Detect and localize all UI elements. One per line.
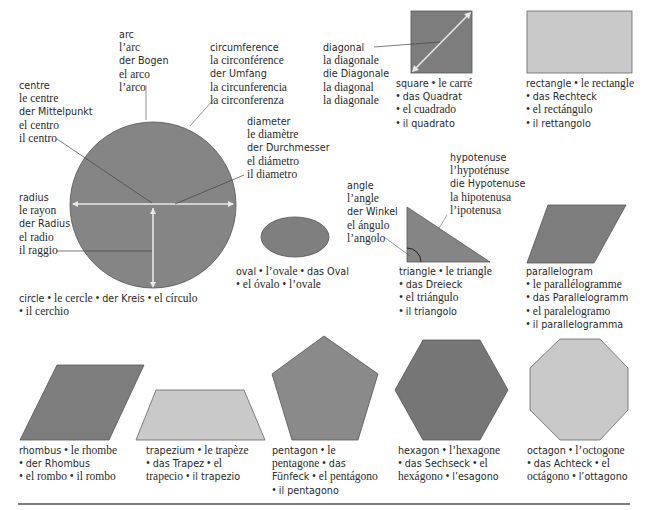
pentagon-caption: pentagon • le pentagone • das Fünfeck • … — [272, 444, 378, 497]
caption-line: • das Parallelogramm — [526, 291, 628, 304]
arc-label: arc l’arc der Bogen el arco l’arco — [119, 28, 169, 94]
label-en: angle — [347, 179, 398, 192]
label-es: el círculo — [154, 292, 197, 304]
caption-line: • il rettangolo — [526, 117, 634, 130]
caption-line: octágono • l’ottagono — [527, 470, 628, 483]
caption-line: • el cuadrado — [396, 103, 472, 116]
label-es: el paralelogramo — [533, 305, 611, 317]
rhombus-shape — [20, 365, 144, 440]
bullet: • — [321, 444, 325, 456]
label-es: octágono — [527, 470, 569, 482]
label-de: Fünfeck — [272, 471, 309, 482]
label-fr: l’octogone — [575, 444, 624, 456]
label-fr: pentagone — [272, 457, 319, 469]
label-fr: la diagonale — [323, 54, 389, 67]
bullet: • — [186, 470, 190, 482]
label-es: el — [602, 457, 610, 469]
label-es: la diagonal — [323, 81, 389, 94]
caption-line: • das Sechseck • el — [398, 457, 500, 470]
label-es: el óvalo — [243, 278, 280, 290]
hypotenuse-label: hypotenuse l’hypoténuse die Hypotenuse l… — [450, 151, 525, 217]
label-fr: le rhombe — [71, 444, 117, 456]
caption-line: • das Achteck • el — [527, 457, 628, 470]
pentagon-shape — [272, 336, 378, 440]
bullet: • — [398, 457, 402, 469]
diagonal-label: diagonal la diagonale die Diagonale la d… — [323, 41, 389, 107]
label-it: il pentagono — [279, 485, 339, 496]
label-es: el rombo — [26, 470, 67, 482]
caption-line: • el rectángulo — [526, 103, 634, 116]
caption-line: • el triángulo — [399, 291, 492, 304]
label-de: der Umfang — [210, 67, 287, 80]
label-en: triangle — [399, 266, 436, 277]
caption-line: hexágono • l’esagono — [398, 470, 500, 483]
caption-line: • das Dreieck — [399, 278, 492, 291]
octagon-caption: octagon • l’octogone • das Achteck • el … — [527, 444, 628, 484]
caption-line: triangle • le triangle — [399, 265, 492, 278]
oval-shape — [261, 217, 329, 257]
bullet: • — [396, 117, 400, 129]
label-de: der Winkel — [347, 205, 398, 218]
bullet: • — [526, 291, 530, 303]
parallelogram-caption: parallelogram • le parallélogramme • das… — [526, 265, 628, 331]
bullet: • — [282, 278, 286, 290]
label-it: l’ipotenusa — [450, 204, 525, 217]
label-es: el rectángulo — [533, 103, 593, 115]
label-de: der Bogen — [119, 54, 169, 67]
bullet: • — [148, 292, 152, 304]
caption-line: hexagon • l’hexagone — [398, 444, 500, 457]
bullet: • — [526, 90, 530, 102]
rectangle-shape — [527, 11, 632, 73]
label-fr: le carré — [438, 77, 472, 89]
circumference-label: circumference la circonférence der Umfan… — [210, 41, 287, 107]
label-de: der Rhombus — [26, 458, 90, 469]
label-fr: le — [327, 444, 335, 456]
label-fr: le rayon — [19, 204, 70, 217]
label-de: das Dreieck — [406, 279, 462, 290]
label-en: hypotenuse — [450, 151, 525, 164]
label-de: der Radius — [19, 217, 70, 230]
caption-line: • das Quadrat — [396, 90, 472, 103]
centre-label: centre le centre der Mittelpunkt el cent… — [19, 79, 93, 145]
label-fr: l’hexagone — [449, 444, 500, 456]
label-fr: le parallélogramme — [533, 278, 622, 290]
label-de: der Kreis — [102, 293, 145, 304]
oval-caption: oval • l’ovale • das Oval • el óvalo • l… — [236, 265, 361, 291]
label-it: l’esagono — [452, 471, 498, 482]
label-fr: le cercle — [54, 292, 93, 304]
bullet: • — [146, 457, 150, 469]
caption-line: • das Trapez • el — [146, 457, 249, 470]
bullet: • — [526, 278, 530, 290]
label-de: das Sechseck — [405, 458, 470, 469]
label-es: el arco — [119, 68, 169, 81]
rectangle-caption: rectangle • le rectangle • das Rechteck … — [526, 77, 634, 130]
label-de: der Durchmesser — [247, 141, 330, 154]
label-fr: le rectangle — [581, 77, 634, 89]
label-it: la diagonale — [323, 94, 389, 107]
label-it: la circonferenza — [210, 94, 287, 107]
bullet: • — [19, 470, 23, 482]
label-en: circumference — [210, 41, 287, 54]
label-es: el diámetro — [247, 155, 330, 168]
bullet: • — [526, 318, 530, 330]
bullet: • — [95, 292, 99, 304]
label-it: il triangolo — [406, 306, 457, 317]
hexagon-caption: hexagon • l’hexagone • das Sechseck • el… — [398, 444, 500, 484]
label-de: die Diagonale — [323, 67, 389, 80]
rhombus-caption: rhombus • le rhombe • der Rhombus • el r… — [19, 444, 117, 484]
label-en: centre — [19, 79, 93, 92]
label-de: das Parallelogramm — [533, 292, 628, 303]
label-de: das Quadrat — [403, 91, 462, 102]
bullet: • — [526, 103, 530, 115]
label-es: la hipotenusa — [450, 191, 525, 204]
angle-label: angle l’angle der Winkel el ángulo l’ang… — [347, 179, 398, 245]
label-fr: le trapèze — [204, 444, 248, 456]
label-fr: le centre — [19, 92, 93, 105]
caption-line: • il parallelogramma — [526, 318, 628, 331]
bullet: • — [399, 291, 403, 303]
label-en: diameter — [247, 115, 330, 128]
bullet: • — [272, 484, 276, 496]
label-it: il quadrato — [403, 118, 455, 129]
radius-label: radius le rayon der Radius el radio il r… — [19, 191, 70, 257]
label-en: trapezium — [146, 445, 195, 456]
